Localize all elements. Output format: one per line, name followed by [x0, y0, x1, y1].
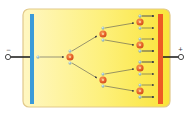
electron-icon — [139, 96, 142, 99]
electron-icon — [139, 38, 142, 41]
electron-icon — [139, 15, 142, 18]
cathode-plate — [30, 14, 34, 104]
anode-plate — [158, 14, 163, 104]
electron-icon — [102, 39, 105, 42]
electron-icon — [102, 85, 105, 88]
terminal-circle-icon — [178, 54, 183, 59]
electron-icon — [102, 73, 105, 76]
electron-icon — [69, 62, 72, 65]
electron-icon — [102, 27, 105, 30]
electron-icon — [139, 84, 142, 87]
cathode-sign-label: − — [6, 47, 11, 53]
electron-icon — [139, 50, 142, 53]
electron-icon — [139, 27, 142, 30]
electron-icon — [139, 73, 142, 76]
electron-cascade-diagram — [0, 0, 190, 119]
electron-icon — [139, 61, 142, 64]
chamber — [23, 9, 170, 107]
electron-icon — [69, 50, 72, 53]
terminal-circle-icon — [5, 54, 10, 59]
anode-sign-label: + — [178, 46, 183, 52]
